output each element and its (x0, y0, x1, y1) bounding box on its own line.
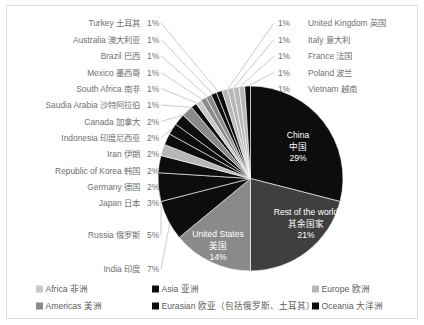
outside-label-percent: 1% (278, 18, 291, 28)
outside-label-name: Mexico 墨西哥 (87, 68, 140, 78)
outside-label-percent: 1% (147, 35, 160, 45)
leader-line (161, 89, 200, 105)
outside-label-percent: 1% (278, 68, 291, 78)
outside-label-name: Australia 澳大利亚 (73, 35, 140, 45)
outside-label-percent: 1% (278, 35, 291, 45)
legend-label[interactable]: Oceania 大洋洲 (322, 300, 383, 311)
legend-label[interactable]: Eurasian 欧亚（包括俄罗斯、土耳其） (162, 300, 315, 311)
outside-label-name: United Kingdom 英国 (308, 18, 386, 28)
legend-label[interactable]: Europe 欧洲 (322, 283, 370, 294)
leader-line (161, 73, 205, 102)
outside-label-percent: 2% (147, 117, 160, 127)
leader-line (161, 219, 171, 269)
outside-label-percent: 7% (147, 264, 160, 274)
slice-inside-label: China中国29% (287, 130, 310, 163)
leader-line (236, 56, 274, 90)
outside-label-name: South Africa 南非 (77, 84, 141, 94)
outside-label-percent: 2% (147, 149, 160, 159)
outside-label-percent: 1% (147, 68, 160, 78)
outside-label-name: Vietnam 越南 (308, 84, 357, 94)
legend-label[interactable]: Africa 非洲 (46, 283, 88, 294)
pie-slices-group (158, 86, 343, 271)
outside-label-name: Iran 伊朗 (107, 149, 140, 159)
plot-area: China中国29%Rest of the world其余国家21%United… (0, 0, 424, 325)
outside-label-percent: 2% (147, 166, 160, 176)
outside-label-name: Brazil 巴西 (101, 51, 140, 61)
outside-label-name: India 印度 (104, 264, 141, 274)
outside-label-name: Japan 日本 (99, 198, 141, 208)
outside-label-name: Italy 意大利 (308, 35, 350, 45)
outside-label-name: Indonesia 印度尼西亚 (61, 133, 140, 143)
outside-label-percent: 3% (147, 198, 160, 208)
leader-line (161, 40, 215, 97)
legend-group: Africa 非洲Asia 亚洲Europe 欧洲Americas 美洲Eura… (36, 283, 383, 311)
outside-label-percent: 1% (147, 51, 160, 61)
leader-line (161, 23, 220, 94)
legend-swatch (152, 303, 159, 310)
outside-label-percent: 2% (147, 182, 160, 192)
legend-swatch (36, 303, 43, 310)
outside-label-percent: 1% (278, 84, 291, 94)
outside-label-percent: 1% (147, 100, 160, 110)
outside-label-name: Poland 波兰 (308, 68, 352, 78)
legend-swatch (152, 286, 159, 293)
outside-label-name: France 法国 (308, 51, 352, 61)
leader-line (231, 40, 274, 91)
outside-label-name: Germany 德国 (87, 182, 140, 192)
pie-chart-figure: China中国29%Rest of the world其余国家21%United… (0, 0, 424, 325)
legend-swatch (312, 286, 319, 293)
pie-chart-svg: China中国29%Rest of the world其余国家21%United… (0, 0, 424, 325)
legend-label[interactable]: Asia 亚洲 (162, 284, 199, 294)
outside-label-name: Saudia Arabia 沙特阿拉伯 (46, 100, 140, 110)
outside-label-percent: 2% (147, 133, 160, 143)
legend-label[interactable]: Americas 美洲 (46, 300, 102, 311)
legend-swatch (36, 286, 43, 293)
outside-label-percent: 1% (147, 18, 160, 28)
outside-label-name: Russia 俄罗斯 (88, 230, 141, 240)
outside-label-percent: 1% (147, 84, 160, 94)
leader-line (161, 105, 196, 108)
outside-label-name: Canada 加拿大 (84, 117, 141, 127)
outside-label-name: Republic of Korea 韩国 (55, 166, 140, 176)
outside-label-percent: 1% (278, 51, 291, 61)
outside-label-name: Turkey 土耳其 (88, 18, 140, 28)
leader-line (225, 23, 274, 92)
outside-label-percent: 5% (147, 230, 160, 240)
legend-swatch (312, 303, 319, 310)
